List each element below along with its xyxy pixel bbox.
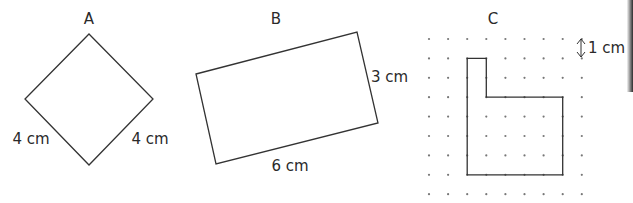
grid-dot (562, 77, 564, 79)
scale-arrow-icon (577, 39, 585, 57)
l-shape-c (467, 58, 563, 174)
dot-grid (428, 38, 583, 195)
grid-dot (428, 135, 430, 137)
grid-dot (562, 57, 564, 59)
grid-dot (485, 193, 487, 195)
grid-dot (504, 193, 506, 195)
grid-dot (428, 154, 430, 156)
grid-dot (581, 154, 583, 156)
figure-b-short-side-label: 3 cm (371, 68, 408, 86)
grid-dot (523, 193, 525, 195)
figure-c: C 1 cm (428, 10, 625, 195)
grid-dot (447, 77, 449, 79)
grid-dot (504, 135, 506, 137)
grid-dot (523, 135, 525, 137)
grid-dot (562, 193, 564, 195)
grid-dot (581, 135, 583, 137)
grid-dot (543, 38, 545, 40)
grid-dot (581, 77, 583, 79)
grid-dot (581, 96, 583, 98)
grid-dot (504, 38, 506, 40)
grid-dot (523, 57, 525, 59)
grid-dot (485, 38, 487, 40)
grid-dot (504, 77, 506, 79)
grid-dot (543, 116, 545, 118)
grid-dot (447, 96, 449, 98)
grid-dot (447, 116, 449, 118)
grid-dot (428, 193, 430, 195)
rectangle-b (196, 32, 378, 164)
grid-dot (485, 135, 487, 137)
page-edge-shadow (627, 0, 633, 92)
grid-dot (523, 38, 525, 40)
figure-a-right-side-label: 4 cm (131, 130, 168, 148)
grid-dot (447, 57, 449, 59)
grid-dot (581, 193, 583, 195)
figure-a-title: A (84, 10, 95, 28)
grid-dot (543, 193, 545, 195)
figure-a: A 4 cm 4 cm (12, 10, 168, 165)
grid-dot (504, 57, 506, 59)
grid-dot (523, 77, 525, 79)
grid-dot (543, 135, 545, 137)
grid-dot (466, 193, 468, 195)
grid-dot (428, 174, 430, 176)
grid-dot (485, 154, 487, 156)
grid-dot (543, 154, 545, 156)
diagram-canvas: A 4 cm 4 cm B 3 cm 6 cm C 1 cm (0, 0, 633, 203)
grid-dot (581, 174, 583, 176)
figure-c-scale-label: 1 cm (588, 39, 625, 57)
grid-dot (543, 77, 545, 79)
grid-dot (428, 96, 430, 98)
grid-dot (447, 135, 449, 137)
grid-dot (485, 116, 487, 118)
figure-b-long-side-label: 6 cm (271, 157, 308, 175)
grid-dot (428, 77, 430, 79)
grid-dot (504, 116, 506, 118)
figure-c-title: C (488, 10, 498, 28)
grid-dot (447, 154, 449, 156)
grid-dot (428, 38, 430, 40)
grid-dot (562, 38, 564, 40)
grid-dot (447, 193, 449, 195)
grid-dot (523, 116, 525, 118)
grid-dot (581, 116, 583, 118)
grid-dot (523, 154, 525, 156)
figure-a-left-side-label: 4 cm (12, 130, 49, 148)
grid-dot (428, 116, 430, 118)
grid-dot (447, 38, 449, 40)
grid-dot (428, 57, 430, 59)
grid-dot (504, 154, 506, 156)
figure-b-title: B (271, 10, 281, 28)
grid-dot (447, 174, 449, 176)
grid-dot (466, 38, 468, 40)
grid-dot (543, 57, 545, 59)
figure-b: B 3 cm 6 cm (196, 10, 408, 175)
